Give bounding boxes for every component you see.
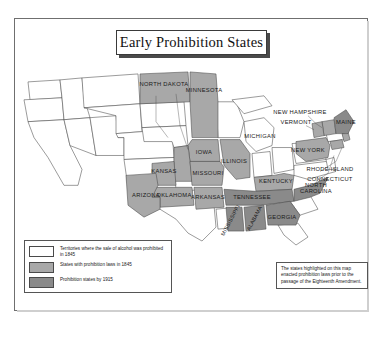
legend-item-states-1845: States with prohibition laws in 1845 (29, 261, 167, 273)
state-montana (82, 74, 140, 108)
legend-label-states-1915: Prohibition states by 1915 (60, 276, 113, 283)
legend-swatch-white (29, 246, 54, 257)
label-minnesota: MINNESOTA (186, 87, 223, 93)
legend-label-territories: Territories where the sale of alcohol wa… (60, 245, 167, 258)
united-states-map: NORTH DAKOTA MINNESOTA IOWA ILLINOIS MIC… (16, 62, 366, 247)
label-illinois: ILLINOIS (221, 158, 247, 164)
label-new-york: NEW YORK (291, 147, 325, 153)
label-north-carolina-2: CAROLINA (300, 188, 332, 194)
label-arizona: ARIZONA (132, 192, 160, 198)
legend-swatch-mid-gray (29, 262, 54, 273)
page-title: Early Prohibition States (120, 34, 263, 51)
label-maine: MAINE (336, 119, 356, 125)
label-tennessee: TENNESSEE (233, 194, 271, 200)
map-note-text: The states highlighted on this map enact… (281, 266, 363, 285)
label-new-hampshire: NEW HAMPSHIRE (273, 109, 326, 115)
state-minnesota (190, 72, 218, 138)
map-figure: Early Prohibition States (0, 0, 384, 337)
label-kentucky: KENTUCKY (259, 178, 293, 184)
legend-item-states-1915: Prohibition states by 1915 (29, 276, 167, 288)
state-indiana (252, 152, 272, 178)
state-south-dakota (140, 102, 186, 128)
map-note-box: The states highlighted on this map enact… (276, 262, 368, 289)
state-new-hampshire (322, 120, 336, 136)
map-title-box: Early Prohibition States (116, 30, 267, 55)
label-north-dakota: NORTH DAKOTA (139, 81, 188, 87)
map-svg: NORTH DAKOTA MINNESOTA IOWA ILLINOIS MIC… (16, 62, 366, 247)
legend-label-states-1845: States with prohibition laws in 1845 (60, 261, 132, 268)
label-oklahoma: OKLAHOMA (156, 192, 191, 198)
label-connecticut: CONNECTICUT (307, 176, 353, 182)
state-north-dakota (140, 72, 190, 104)
label-georgia: GEORGIA (267, 214, 296, 220)
legend-item-territories: Territories where the sale of alcohol wa… (29, 245, 167, 258)
label-arkansas: ARKANSAS (191, 194, 225, 200)
state-florida (278, 223, 308, 245)
state-oregon (24, 98, 64, 122)
label-missouri: MISSOURI (193, 170, 224, 176)
label-michigan: MICHIGAN (244, 133, 275, 139)
state-washington (28, 80, 62, 100)
label-iowa: IOWA (196, 149, 212, 155)
label-kansas: KANSAS (151, 168, 176, 174)
map-legend: Territories where the sale of alcohol wa… (24, 240, 172, 293)
legend-swatch-dark-gray (29, 277, 54, 288)
label-vermont: VERMONT (280, 119, 311, 125)
